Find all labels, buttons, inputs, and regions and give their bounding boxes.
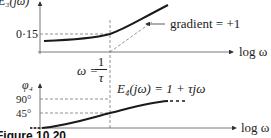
top-y-axis-label: E₃(jω)	[0, 0, 29, 7]
one-over-tau-fraction: 1 τ	[95, 55, 107, 84]
top-x-axis-label-text: log ω	[239, 44, 267, 59]
bottom-x-axis-label: log ω	[241, 121, 269, 134]
gradient-annotation: gradient = +1	[170, 17, 240, 30]
bottom-y-axis-label: φ₄	[22, 79, 33, 91]
top-y-tick-015: 0·15	[16, 28, 38, 40]
top-asymptote-dashed	[110, 22, 152, 52]
top-magnitude-curve	[44, 5, 168, 41]
fraction-denominator: τ	[95, 71, 107, 84]
figure-caption: Figure 10.20	[0, 129, 66, 138]
bottom-y-tick-90: 90°	[16, 94, 31, 105]
fraction-numerator: 1	[95, 55, 107, 68]
transfer-function-equation: E₄(jω) = 1 + τjω	[117, 82, 205, 95]
bottom-x-axis-label-text: log ω	[241, 120, 269, 135]
bottom-phase-curve	[42, 101, 168, 128]
bottom-y-tick-45: 45°	[16, 108, 31, 119]
top-x-axis-label: log ω	[239, 45, 267, 58]
